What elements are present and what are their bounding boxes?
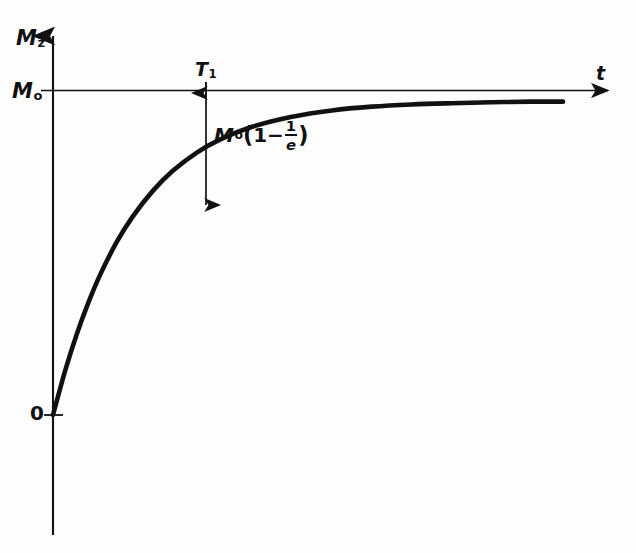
t1-sub: 1 — [208, 67, 216, 81]
m0-base: M — [12, 79, 33, 103]
y-tick-label-m0: Mo — [12, 81, 42, 102]
fraction-denominator: e — [285, 137, 297, 152]
amplitude-fraction: 1e — [285, 118, 297, 152]
t1-base: T — [195, 58, 208, 80]
amplitude-label: Mo(1−1e) — [214, 118, 308, 152]
amplitude-one: 1 — [253, 125, 267, 145]
amplitude-open-paren: ( — [243, 124, 253, 146]
y-axis-label-sub: z — [38, 35, 46, 50]
amplitude-sub: o — [234, 129, 243, 141]
amplitude-close-paren: ) — [298, 124, 308, 146]
plot-canvas — [0, 0, 636, 553]
origin-label: 0 — [30, 403, 44, 423]
figure-container: Mz Mo 0 t T1 Mo(1−1e) — [0, 0, 636, 553]
fraction-numerator: 1 — [285, 118, 297, 133]
t1-label: T1 — [195, 60, 217, 81]
y-axis-label-base: M — [16, 26, 37, 50]
m0-sub: o — [33, 88, 42, 103]
amplitude-base: M — [214, 125, 234, 145]
x-axis-label: t — [596, 64, 605, 83]
amplitude-minus: − — [267, 125, 284, 145]
y-axis-label: Mz — [16, 28, 45, 49]
